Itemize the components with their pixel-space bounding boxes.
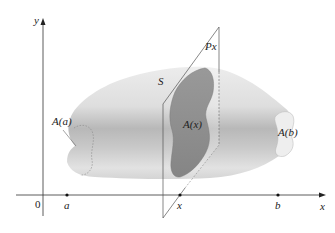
x-axis-label: x: [320, 201, 325, 212]
y-axis: [41, 18, 46, 216]
plane-label: Px: [205, 41, 217, 52]
diagram-canvas: [0, 0, 335, 233]
point-x-label: x: [177, 200, 182, 211]
cross-section-b-label: A(b): [278, 127, 298, 138]
point-a: [65, 193, 68, 196]
plane-label-main: P: [205, 40, 212, 52]
cross-section-a-label: A(a): [52, 116, 72, 127]
cross-section-x-label: A(x): [183, 119, 202, 130]
point-x: [178, 193, 181, 196]
point-b-label: b: [275, 200, 281, 211]
point-a-label: a: [64, 200, 70, 211]
point-b: [276, 193, 279, 196]
solid-label: S: [158, 76, 164, 87]
origin-label: 0: [35, 199, 41, 210]
y-axis-label: y: [34, 15, 39, 26]
plane-label-subscript: x: [212, 40, 217, 52]
solid-cross-section-diagram: y x 0 a x b S Px A(a) A(x) A(b): [0, 0, 335, 233]
